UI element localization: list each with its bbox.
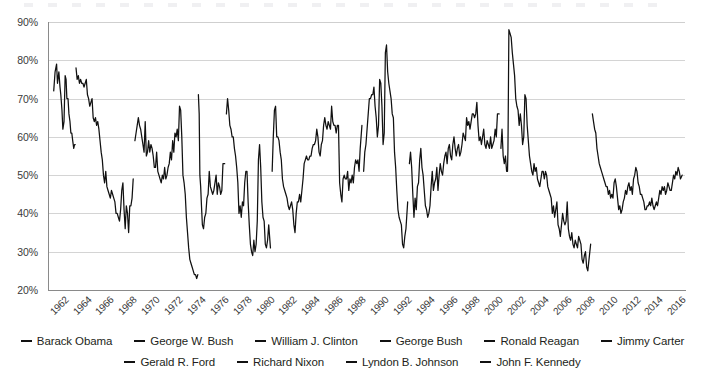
legend-item[interactable]: Gerald R. Ford bbox=[124, 356, 215, 368]
y-axis-tick-label: 70% bbox=[17, 93, 38, 105]
legend-item[interactable]: Richard Nixon bbox=[237, 356, 324, 368]
legend-line-icon bbox=[380, 340, 391, 342]
series-line bbox=[76, 68, 133, 233]
x-axis-tick-label: 1984 bbox=[299, 294, 322, 317]
x-axis-tick-label: 2000 bbox=[482, 294, 505, 317]
x-axis-tick-label: 1980 bbox=[253, 294, 276, 317]
x-axis-tick-label: 2002 bbox=[505, 294, 528, 317]
legend-line-icon bbox=[346, 361, 357, 363]
plot-area bbox=[48, 22, 685, 290]
x-axis-tick-label: 1970 bbox=[139, 294, 162, 317]
legend-item[interactable]: Jimmy Carter bbox=[601, 335, 684, 347]
legend-item[interactable]: William J. Clinton bbox=[255, 335, 357, 347]
legend-item-label: Ronald Reagan bbox=[500, 335, 579, 347]
x-axis-tick-label: 1994 bbox=[414, 294, 437, 317]
series-line bbox=[364, 45, 408, 248]
series-line bbox=[501, 30, 591, 271]
legend-line-icon bbox=[480, 361, 491, 363]
y-axis-tick-label: 80% bbox=[17, 54, 38, 66]
x-axis-tick-label: 1972 bbox=[162, 294, 185, 317]
x-axis-tick-label: 2004 bbox=[528, 294, 551, 317]
x-axis-tick-label: 1976 bbox=[208, 294, 231, 317]
y-axis-tick-label: 50% bbox=[17, 169, 38, 181]
y-axis-tick-label: 40% bbox=[17, 207, 38, 219]
legend-item[interactable]: Lyndon B. Johnson bbox=[346, 356, 458, 368]
legend-item-label: Lyndon B. Johnson bbox=[362, 356, 458, 368]
x-axis-tick-label: 1996 bbox=[436, 294, 459, 317]
y-axis-tick-label: 90% bbox=[17, 16, 38, 28]
series-lines bbox=[48, 22, 685, 290]
x-axis-tick-label: 1968 bbox=[116, 294, 139, 317]
x-axis-tick-label: 2008 bbox=[574, 294, 597, 317]
legend-item[interactable]: Barack Obama bbox=[21, 335, 113, 347]
x-axis-tick-label: 1990 bbox=[368, 294, 391, 317]
series-line bbox=[198, 95, 224, 229]
x-axis-tick-label: 1978 bbox=[231, 294, 254, 317]
series-line bbox=[272, 106, 362, 232]
legend-line-icon bbox=[124, 361, 135, 363]
x-axis-tick-label: 1998 bbox=[459, 294, 482, 317]
legend-line-icon bbox=[134, 340, 145, 342]
legend-item-label: Barack Obama bbox=[37, 335, 113, 347]
x-axis-labels: 1962196419661968197019721974197619781980… bbox=[0, 292, 705, 332]
y-axis-line bbox=[48, 22, 49, 291]
legend-item-label: George Bush bbox=[396, 335, 463, 347]
x-axis-tick-label: 1982 bbox=[276, 294, 299, 317]
series-line bbox=[592, 114, 682, 214]
legend-line-icon bbox=[237, 361, 248, 363]
legend-item[interactable]: George W. Bush bbox=[134, 335, 233, 347]
legend-item-label: George W. Bush bbox=[150, 335, 233, 347]
x-axis-tick-label: 2014 bbox=[642, 294, 665, 317]
legend-row-2: Gerald R. FordRichard NixonLyndon B. Joh… bbox=[0, 351, 705, 372]
series-line bbox=[226, 99, 270, 256]
legend-line-icon bbox=[484, 340, 495, 342]
x-axis-tick-label: 2012 bbox=[619, 294, 642, 317]
legend-line-icon bbox=[601, 340, 612, 342]
x-axis-tick-label: 1986 bbox=[322, 294, 345, 317]
legend-line-icon bbox=[21, 340, 32, 342]
series-line bbox=[409, 102, 499, 217]
presidential-approval-chart: 90%80%70%60%50%40%30%20% 196219641966196… bbox=[0, 0, 705, 381]
legend-item-label: John F. Kennedy bbox=[496, 356, 580, 368]
legend-item-label: Richard Nixon bbox=[253, 356, 324, 368]
series-line bbox=[54, 64, 76, 148]
legend-line-icon bbox=[255, 340, 266, 342]
x-axis-tick-label: 1964 bbox=[70, 294, 93, 317]
x-axis-tick-label: 1992 bbox=[391, 294, 414, 317]
legend-item-label: William J. Clinton bbox=[271, 335, 357, 347]
legend-item[interactable]: John F. Kennedy bbox=[480, 356, 580, 368]
x-axis-tick-label: 2006 bbox=[551, 294, 574, 317]
x-axis-tick-label: 1988 bbox=[345, 294, 368, 317]
x-axis-tick-label: 1962 bbox=[48, 294, 71, 317]
legend-item-label: Gerald R. Ford bbox=[140, 356, 215, 368]
y-axis-labels: 90%80%70%60%50%40%30%20% bbox=[0, 0, 44, 300]
x-axis-tick-label: 2010 bbox=[596, 294, 619, 317]
legend-item[interactable]: Ronald Reagan bbox=[484, 335, 579, 347]
x-axis-tick-label: 1966 bbox=[93, 294, 116, 317]
legend-item[interactable]: George Bush bbox=[380, 335, 463, 347]
x-axis-tick-label: 1974 bbox=[185, 294, 208, 317]
x-axis-line bbox=[48, 290, 686, 291]
x-axis-tick-label: 2016 bbox=[665, 294, 688, 317]
legend-item-label: Jimmy Carter bbox=[617, 335, 684, 347]
series-line bbox=[135, 106, 198, 278]
y-axis-tick-label: 30% bbox=[17, 246, 38, 258]
chart-legend: Barack ObamaGeorge W. BushWilliam J. Cli… bbox=[0, 330, 705, 380]
legend-row-1: Barack ObamaGeorge W. BushWilliam J. Cli… bbox=[0, 330, 705, 351]
y-axis-tick-label: 60% bbox=[17, 131, 38, 143]
